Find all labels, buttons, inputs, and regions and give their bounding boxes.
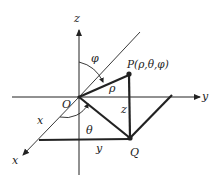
point-q: [127, 135, 132, 140]
x-segment-label: x: [37, 114, 44, 127]
segment-rho: [79, 75, 129, 97]
z-segment-label: z: [120, 103, 127, 116]
segment-q-to-x-axis: [39, 139, 130, 140]
phi-label: φ: [91, 52, 99, 65]
theta-label: θ: [86, 124, 93, 137]
point-p-label: P(ρ,θ,φ): [126, 58, 169, 70]
spherical-coordinates-diagram: z y x O P(ρ,θ,φ) Q φ θ ρ z x y: [0, 0, 221, 183]
point-q-label: Q: [130, 146, 139, 159]
rho-label: ρ: [108, 82, 116, 95]
z-axis-label: z: [73, 12, 80, 25]
y-segment-label: y: [95, 142, 103, 155]
point-origin: [77, 95, 80, 98]
origin-label: O: [62, 98, 71, 111]
segment-z: [129, 75, 130, 138]
point-p: [126, 71, 131, 76]
phi-angle-arc: [79, 62, 103, 82]
x-axis-label: x: [12, 154, 19, 167]
segment-q-to-y-axis: [130, 95, 172, 138]
y-axis-label: y: [201, 90, 209, 103]
